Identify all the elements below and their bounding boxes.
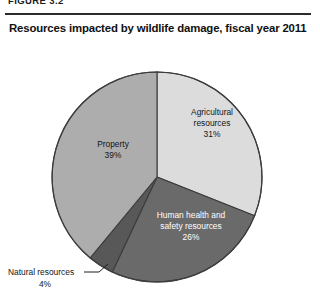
pie-label-human-health-line1: Human health and [157, 210, 226, 220]
pie-label-natural-resources-value: 4% [39, 279, 52, 289]
pie-chart: Agricultural resources 31% Property 39% … [0, 42, 320, 302]
pie-chart-svg: Agricultural resources 31% Property 39% … [0, 42, 320, 302]
header-divider [5, 13, 311, 15]
pie-label-agricultural-resources-line1: Agricultural [191, 107, 233, 117]
pie-label-human-health-line2: safety resources [160, 221, 221, 231]
pie-label-natural-resources-line1: Natural resources [8, 267, 74, 277]
pie-label-agricultural-resources-line2: resources [194, 118, 231, 128]
pie-label-property-line1: Property [97, 139, 129, 149]
pie-label-property-value: 39% [105, 150, 122, 160]
pie-label-human-health-value: 26% [183, 232, 200, 242]
pie-label-agricultural-resources-value: 31% [204, 129, 221, 139]
figure-number-label: FIGURE 3.2 [8, 0, 64, 5]
page-title: Resources impacted by wildlife damage, f… [9, 21, 309, 35]
figure-panel: FIGURE 3.2 Resources impacted by wildlif… [0, 0, 320, 302]
